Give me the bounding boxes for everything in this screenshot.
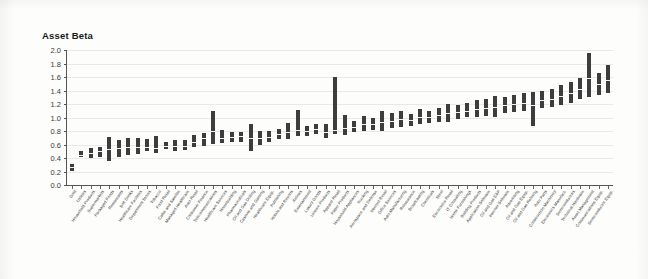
bar-median-marker <box>437 115 441 116</box>
bar-median-marker <box>587 78 591 79</box>
bar-median-marker <box>249 138 253 139</box>
bar-median-marker <box>324 132 328 133</box>
bar-range <box>399 111 403 127</box>
bar-median-marker <box>503 105 507 106</box>
y-axis-tick-label: 0.2 <box>51 167 61 176</box>
bar-range <box>183 140 187 149</box>
bar-range <box>409 114 413 125</box>
bar-median-marker <box>484 108 488 109</box>
bar-median-marker <box>136 147 140 148</box>
bar-median-marker <box>418 117 422 118</box>
bar-range <box>597 73 601 95</box>
bar-range <box>239 132 243 142</box>
bar-range <box>164 142 168 148</box>
bar-median-marker <box>98 151 102 152</box>
y-axis-tick-label: 1.8 <box>51 59 61 68</box>
bar-range <box>437 108 441 122</box>
y-axis-tick-label: 2.0 <box>51 46 61 55</box>
bar-range <box>117 140 121 158</box>
bar-median-marker <box>343 128 347 129</box>
bar-median-marker <box>371 124 375 125</box>
bar-range <box>569 82 573 102</box>
bar-range <box>145 139 149 151</box>
bar-median-marker <box>446 113 450 114</box>
chart-title: Asset Beta <box>42 30 93 41</box>
bar-range <box>211 111 215 144</box>
bar-median-marker <box>409 120 413 121</box>
bar-median-marker <box>79 155 83 156</box>
bar-range <box>136 138 140 154</box>
bar-median-marker <box>540 100 544 101</box>
bar-range <box>89 148 93 158</box>
bar-median-marker <box>277 134 281 135</box>
y-axis-tick-label: 1.2 <box>51 100 61 109</box>
bar-range <box>249 124 253 152</box>
bar-range <box>296 110 300 136</box>
bar-range <box>343 115 347 135</box>
bar-range <box>173 140 177 151</box>
y-axis-tick-mark <box>64 172 67 173</box>
bar-range <box>333 77 337 134</box>
bar-range <box>70 164 74 171</box>
bar-range <box>258 131 262 145</box>
bar-median-marker <box>230 137 234 138</box>
y-axis-tick-mark <box>64 91 67 92</box>
bar-range <box>352 121 356 132</box>
bar-range <box>493 96 497 118</box>
chart-page: Asset Beta 0.00.20.40.60.81.01.21.41.61.… <box>0 0 648 279</box>
bar-median-marker <box>390 121 394 122</box>
y-axis-tick-mark <box>64 131 67 132</box>
bar-median-marker <box>183 146 187 147</box>
bar-range <box>202 133 206 146</box>
bar-range <box>305 126 309 137</box>
bar-median-marker <box>126 147 130 148</box>
bar-median-marker <box>352 127 356 128</box>
bar-median-marker <box>399 119 403 120</box>
bar-range <box>98 147 102 156</box>
bar-range <box>418 109 422 124</box>
bar-median-marker <box>606 80 610 81</box>
gridline <box>67 77 613 78</box>
y-axis-tick-label: 0.0 <box>51 181 61 190</box>
bar-range <box>371 118 375 130</box>
bar-range <box>277 129 281 139</box>
y-axis-tick-labels: 0.00.20.40.60.81.01.21.41.61.82.0 <box>42 50 63 185</box>
bar-median-marker <box>145 147 149 148</box>
bar-range <box>531 92 535 126</box>
bar-median-marker <box>475 109 479 110</box>
bar-median-marker <box>493 107 497 108</box>
bar-range <box>446 104 450 122</box>
bar-median-marker <box>220 138 224 139</box>
bar-median-marker <box>597 84 601 85</box>
bar-median-marker <box>296 130 300 131</box>
bar-median-marker <box>559 96 563 97</box>
bar-range <box>154 136 158 152</box>
bar-range <box>267 131 271 142</box>
bar-median-marker <box>522 103 526 104</box>
bar-median-marker <box>362 124 366 125</box>
bar-range <box>578 78 582 98</box>
bar-range <box>324 124 328 138</box>
y-axis-tick-mark <box>64 158 67 159</box>
bar-median-marker <box>173 146 177 147</box>
bar-median-marker <box>89 153 93 154</box>
y-axis-tick-mark <box>64 118 67 119</box>
bar-median-marker <box>211 131 215 132</box>
bar-median-marker <box>117 148 121 149</box>
bar-median-marker <box>578 89 582 90</box>
bar-range <box>427 111 431 123</box>
x-axis-tick-labels: GoldUtilitiesHousehold ProductsSupermark… <box>66 187 612 277</box>
y-axis-tick-label: 0.8 <box>51 127 61 136</box>
bar-median-marker <box>550 99 554 100</box>
chart-plot-wrapper: 0.00.20.40.60.81.01.21.41.61.82.0 GoldUt… <box>42 50 612 195</box>
y-axis-tick-mark <box>64 64 67 65</box>
y-axis-tick-label: 0.4 <box>51 154 61 163</box>
bar-range <box>606 65 610 93</box>
bar-median-marker <box>427 117 431 118</box>
bar-median-marker <box>70 167 74 168</box>
bar-range <box>522 93 526 111</box>
y-axis-tick-mark <box>64 145 67 146</box>
bar-range <box>192 135 196 147</box>
bar-median-marker <box>512 104 516 105</box>
bar-range <box>362 116 366 131</box>
